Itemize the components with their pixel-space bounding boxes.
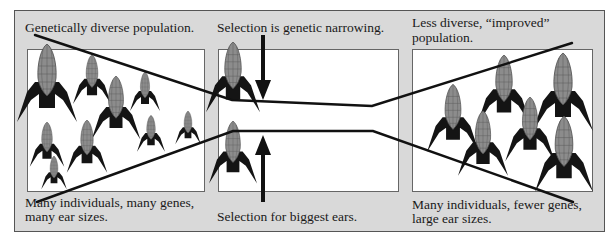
middle-top-caption: Selection is genetic narrowing. [217, 20, 384, 35]
middle-bottom-caption: Selection for biggest ears. [217, 209, 357, 224]
middle-panel [219, 50, 399, 192]
left-bottom-caption-2: many ear sizes. [25, 209, 108, 224]
right-bottom-caption-1: Many individuals, fewer genes, [412, 197, 582, 212]
selection-diagram: Genetically diverse population. Many ind… [0, 0, 614, 244]
right-top-caption-1: Less diverse, “improved” [412, 15, 550, 30]
diagram-canvas: Genetically diverse population. Many ind… [0, 0, 614, 244]
left-bottom-caption-1: Many individuals, many genes, [25, 195, 194, 210]
right-top-caption-2: population. [412, 30, 473, 45]
right-bottom-caption-2: large ear sizes. [412, 211, 492, 226]
left-top-caption: Genetically diverse population. [25, 20, 194, 35]
